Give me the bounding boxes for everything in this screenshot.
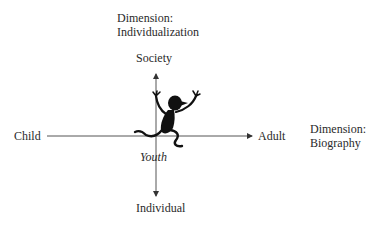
child-label: Child	[14, 129, 41, 143]
biography-dimension-title-line1: Dimension:	[310, 122, 366, 136]
society-label: Society	[136, 51, 172, 65]
individualization-dimension-title-line1: Dimension:	[117, 11, 173, 25]
individual-label: Individual	[136, 201, 185, 215]
biography-dimension-title-line2: Biography	[310, 136, 361, 150]
individualization-dimension-title-line2: Individualization	[117, 25, 199, 39]
jumping-person-icon	[135, 91, 200, 146]
youth-label: Youth	[140, 150, 167, 164]
adult-label: Adult	[258, 129, 285, 143]
